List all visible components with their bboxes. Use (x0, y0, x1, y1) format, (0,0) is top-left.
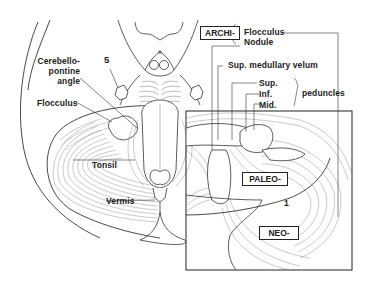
label-vermis: Vermis (106, 196, 134, 206)
label-peduncle-mid: Mid. (259, 100, 276, 110)
label-archi-flocculus: Flocculus (244, 27, 285, 37)
label-peduncles: peduncles (302, 88, 345, 98)
archi-box: ARCHI- (200, 26, 240, 40)
brainstem (118, 20, 200, 105)
label-peduncle-sup: Sup. (259, 78, 278, 88)
label-peduncle-inf: Inf. (259, 89, 272, 99)
label-tonsil: Tonsil (92, 160, 117, 170)
label-cerebellopontine-angle-3: angle (32, 76, 80, 86)
label-cerebellopontine-angle-1: Cerebello- (32, 56, 80, 66)
neo-box: NEO- (259, 226, 299, 240)
label-cerebellopontine-angle-2: pontine (32, 66, 80, 76)
label-nerve-5: 5 (104, 55, 109, 65)
cerebellum-diagram (0, 0, 365, 282)
outer-contour (20, 20, 100, 238)
left-flocculus-shape (108, 116, 137, 140)
label-fissure-1: 1 (284, 198, 289, 208)
label-sup-medullary-velum: Sup. medullary velum (228, 60, 318, 70)
right-structures (186, 124, 305, 271)
vermis-column (140, 100, 186, 245)
label-flocculus-left: Flocculus (37, 98, 78, 108)
label-archi-nodule: Nodule (244, 37, 273, 47)
paleo-box: PALEO- (242, 172, 288, 186)
nerve-5-stub (115, 85, 203, 100)
